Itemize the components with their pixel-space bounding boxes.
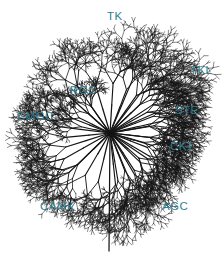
group-label-rgc: RGC (70, 84, 97, 96)
group-label-cmgc: CMGC (17, 110, 54, 122)
kinome-tree-figure: TK TKL STE CK1 AGC CAMK CMGC RGC (0, 0, 222, 254)
group-label-tkl: TKL (190, 64, 212, 76)
group-label-ck1: CK1 (170, 140, 194, 152)
tree-branches (5, 17, 221, 251)
group-label-camk: CAMK (40, 200, 75, 212)
group-label-agc: AGC (162, 200, 188, 212)
group-label-ste: STE (175, 104, 199, 116)
group-label-tk: TK (107, 10, 123, 22)
kinome-tree-diagram (0, 0, 222, 254)
